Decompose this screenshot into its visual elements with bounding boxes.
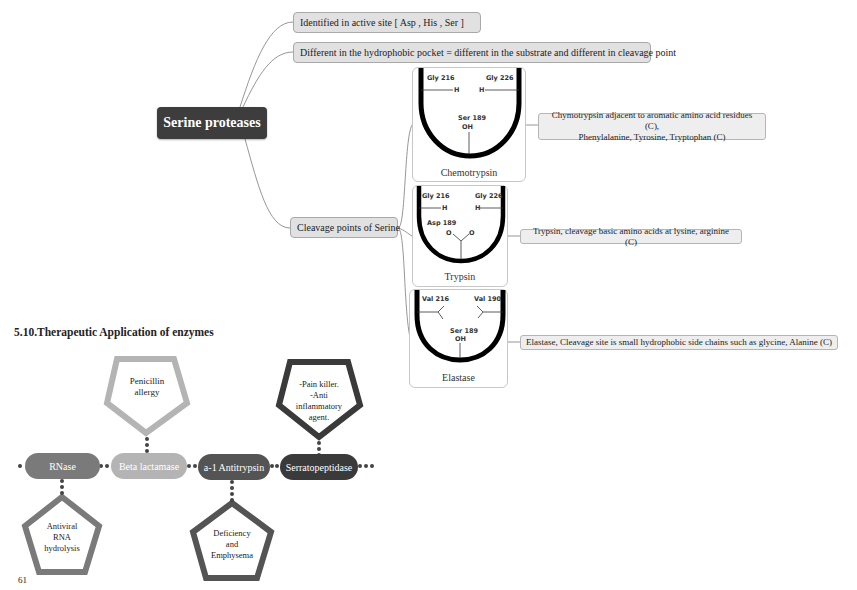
deficiency-line1: Deficiency bbox=[213, 528, 250, 539]
pain-line3: inflammatory bbox=[296, 401, 342, 412]
deficiency-line3: Emphysema bbox=[211, 550, 253, 561]
penicillin-line2: allergy bbox=[135, 387, 160, 398]
pentagon-antiviral-text: Antiviral RNA hydrolysis bbox=[32, 515, 92, 559]
page-number: 61 bbox=[18, 575, 27, 585]
pill-rnase[interactable]: RNase bbox=[25, 453, 100, 479]
pain-line2: -Anti bbox=[310, 390, 328, 401]
antiviral-line1: Antiviral bbox=[47, 521, 78, 532]
pain-line1: -Pain killer. bbox=[299, 379, 339, 390]
pentagon-pain-killer-text: -Pain killer. -Anti inflammatory agent. bbox=[287, 373, 351, 429]
antiviral-line2: RNA bbox=[53, 532, 71, 543]
pill-beta-lactamase-label: Beta lactamase bbox=[119, 461, 179, 472]
pentagon-deficiency-text: Deficiency and Emphysema bbox=[200, 522, 264, 566]
pill-serratopeptidase[interactable]: Serratopeptidase bbox=[280, 454, 358, 480]
pill-a1-antitrypsin[interactable]: a-1 Antitrypsin bbox=[198, 454, 270, 480]
penicillin-line1: Penicillin bbox=[130, 376, 165, 387]
antiviral-line3: hydrolysis bbox=[44, 543, 79, 554]
deficiency-line2: and bbox=[226, 539, 238, 550]
pentagon-penicillin-text: Penicillin allergy bbox=[112, 370, 182, 404]
pill-a1-antitrypsin-label: a-1 Antitrypsin bbox=[204, 462, 264, 473]
pill-serratopeptidase-label: Serratopeptidase bbox=[286, 462, 353, 473]
pain-line4: agent. bbox=[309, 412, 330, 423]
therapeutic-diagram-shapes bbox=[0, 0, 857, 590]
pill-beta-lactamase[interactable]: Beta lactamase bbox=[111, 453, 187, 479]
pill-rnase-label: RNase bbox=[49, 461, 76, 472]
